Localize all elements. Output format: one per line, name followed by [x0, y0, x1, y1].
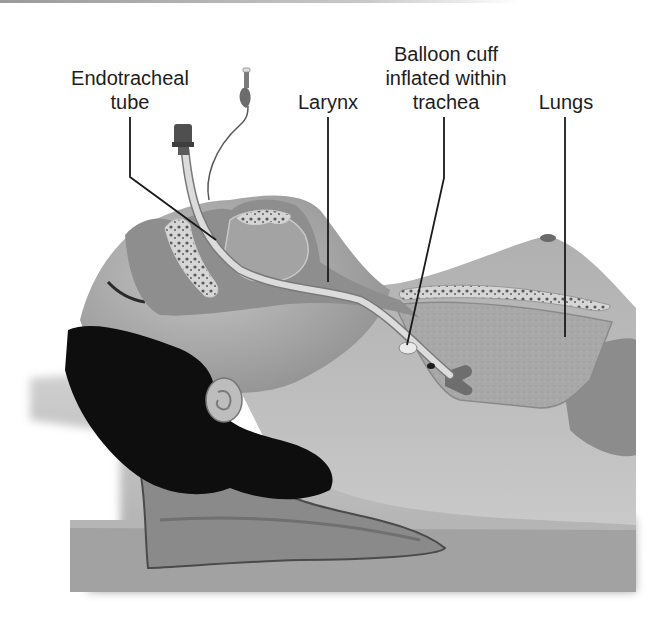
label-endotracheal-tube-line2: tube	[60, 90, 200, 114]
label-endotracheal-tube: Endotracheal tube	[60, 66, 200, 114]
label-lungs-line1: Lungs	[528, 90, 604, 114]
label-endotracheal-tube-line1: Endotracheal	[60, 66, 200, 90]
label-balloon-cuff-line3: trachea	[376, 90, 516, 114]
label-balloon-cuff-line1: Balloon cuff	[376, 42, 516, 66]
label-balloon-cuff: Balloon cuff inflated within trachea	[376, 42, 516, 114]
label-larynx-line1: Larynx	[288, 90, 368, 114]
label-balloon-cuff-line2: inflated within	[376, 66, 516, 90]
label-lungs: Lungs	[528, 90, 604, 114]
label-larynx: Larynx	[288, 90, 368, 114]
